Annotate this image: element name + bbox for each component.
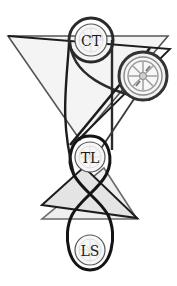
ls-label: LS	[81, 243, 100, 259]
diagram-canvas: CT TL LS	[0, 0, 177, 286]
wheel-icon	[128, 61, 158, 91]
ct-label: CT	[81, 33, 102, 49]
tl-label: TL	[81, 150, 100, 166]
